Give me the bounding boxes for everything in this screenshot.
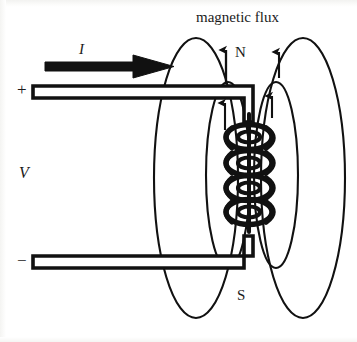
scan-edge-top (0, 0, 357, 7)
north-pole-label: N (235, 45, 246, 60)
scan-edge-bottom (0, 337, 357, 342)
bottom-lead-wire (33, 236, 253, 268)
magnetic-flux-diagram: magnetic flux N S I V + − (0, 0, 357, 342)
diagram-canvas (0, 0, 357, 342)
south-pole-label: S (237, 288, 245, 303)
top-lead-wire (33, 86, 253, 122)
current-arrow-icon (45, 55, 174, 78)
negative-terminal-label: − (17, 252, 27, 269)
voltage-label: V (19, 165, 29, 181)
current-label: I (79, 42, 84, 57)
scan-edge-left (0, 0, 6, 342)
magnetic-flux-label: magnetic flux (196, 10, 279, 25)
positive-terminal-label: + (17, 81, 27, 98)
solenoid-coil (226, 114, 273, 232)
outer-right-flux-loop (261, 38, 345, 318)
